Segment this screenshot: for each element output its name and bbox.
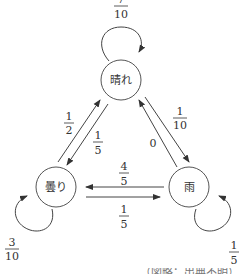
svg-text:5: 5 xyxy=(231,254,238,267)
svg-text:3: 3 xyxy=(9,236,16,249)
footer-caption-clipped: （図略：出典不明） xyxy=(140,268,240,274)
svg-text:1: 1 xyxy=(66,110,73,123)
edge-sunny-cloudy xyxy=(67,104,108,165)
svg-text:1: 1 xyxy=(177,105,184,118)
edge-rain-sunny xyxy=(139,100,177,167)
label-rain-self: 1 5 xyxy=(229,239,239,267)
node-sunny: 晴れ xyxy=(101,60,141,100)
node-cloudy: 曇り xyxy=(36,167,76,207)
node-cloudy-label: 曇り xyxy=(45,181,67,194)
svg-text:7: 7 xyxy=(118,0,125,6)
svg-text:10: 10 xyxy=(173,119,187,132)
label-cloudy-rain: 1 5 xyxy=(119,203,129,231)
svg-text:2: 2 xyxy=(66,124,73,137)
svg-text:4: 4 xyxy=(121,160,128,173)
svg-text:10: 10 xyxy=(114,8,128,21)
label-rain-cloudy: 4 5 xyxy=(119,160,129,188)
label-rain-sunny: 0 xyxy=(150,137,157,150)
svg-text:5: 5 xyxy=(121,175,128,188)
svg-text:1: 1 xyxy=(95,129,102,142)
transition-diagram: 晴れ 曇り 雨 7 10 1 2 1 5 1 xyxy=(0,0,244,274)
svg-text:10: 10 xyxy=(5,250,19,263)
label-sunny-cloudy: 1 5 xyxy=(93,129,103,157)
svg-text:5: 5 xyxy=(95,144,102,157)
label-cloudy-sunny: 1 2 xyxy=(64,110,74,137)
label-sunny-rain: 1 10 xyxy=(173,105,187,132)
node-rain-label: 雨 xyxy=(184,181,195,194)
label-cloudy-self: 3 10 xyxy=(5,236,19,263)
svg-text:5: 5 xyxy=(121,218,128,231)
edge-sunny-self xyxy=(102,27,142,61)
node-sunny-label: 晴れ xyxy=(110,74,132,87)
node-rain: 雨 xyxy=(169,167,209,207)
label-sunny-self: 7 10 xyxy=(114,0,128,21)
svg-text:1: 1 xyxy=(121,203,128,216)
svg-text:1: 1 xyxy=(231,239,238,252)
